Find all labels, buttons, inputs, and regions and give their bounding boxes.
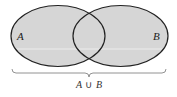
venn-diagram: A B A ∪ B — [0, 0, 177, 97]
set-a-label: A — [16, 30, 24, 42]
union-caption: A ∪ B — [75, 79, 102, 90]
union-brace — [12, 69, 166, 77]
union-label-a: A — [75, 79, 83, 90]
union-symbol: ∪ — [85, 79, 92, 90]
set-b-label: B — [153, 30, 160, 42]
union-label-b: B — [96, 79, 102, 90]
